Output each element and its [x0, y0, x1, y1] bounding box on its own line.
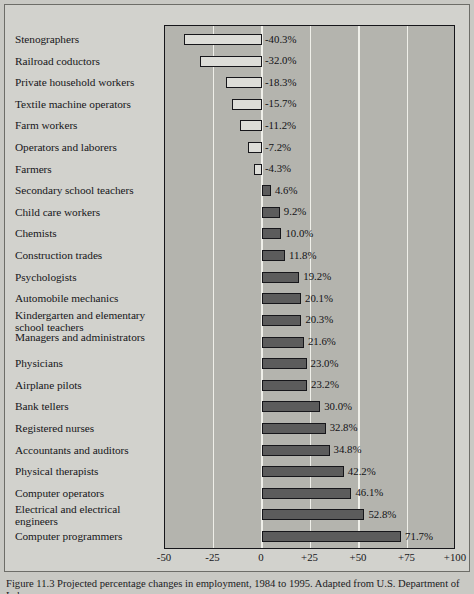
bar-value-label: 9.2%	[284, 206, 307, 217]
category-label: Automobile mechanics	[15, 293, 160, 305]
x-tick-+100: +100	[444, 551, 466, 563]
category-label: Kindergarten and elementary school teach…	[15, 310, 160, 333]
bar-value-label: 20.1%	[305, 293, 333, 304]
bar-bank-tellers	[262, 401, 320, 412]
bar-physicians	[262, 358, 307, 369]
category-label: Private household workers	[15, 77, 160, 89]
bar-value-label: 52.8%	[368, 509, 396, 520]
category-label: Railroad coductors	[15, 56, 160, 68]
bar-value-label: -32.0%	[265, 55, 296, 66]
category-label: Chemists	[15, 228, 160, 240]
category-label: Physicians	[15, 358, 160, 370]
bar-value-label: 71.7%	[405, 531, 433, 542]
bar-value-label: 21.6%	[308, 336, 336, 347]
gridline--25	[213, 26, 215, 548]
x-tick--25: -25	[205, 551, 219, 563]
bar-railroad-coductors	[200, 56, 262, 67]
bar-operators-and-laborers	[248, 142, 262, 153]
bar-construction-trades	[262, 250, 285, 261]
category-label: Bank tellers	[15, 401, 160, 413]
bar-chemists	[262, 228, 281, 239]
bar-textile-machine-operators	[232, 99, 262, 110]
category-label: Airplane pilots	[15, 380, 160, 392]
category-label: Electrical and electrical engineers	[15, 504, 160, 527]
x-tick-0: 0	[258, 551, 263, 563]
x-tick-+25: +25	[301, 551, 318, 563]
category-label: Farm workers	[15, 120, 160, 132]
category-label: Accountants and auditors	[15, 445, 160, 457]
category-label: Textile machine operators	[15, 99, 160, 111]
category-label: Registered nurses	[15, 423, 160, 435]
bar-farm-workers	[240, 120, 262, 131]
bar-value-label: -15.7%	[265, 98, 296, 109]
bar-computer-programmers	[262, 531, 401, 542]
bar-value-label: 34.8%	[334, 444, 362, 455]
category-label: Secondary school teachers	[15, 185, 160, 197]
gridline-75	[407, 26, 409, 548]
bar-automobile-mechanics	[262, 293, 301, 304]
bar-psychologists	[262, 272, 299, 283]
bar-computer-operators	[262, 488, 351, 499]
bar-value-label: 32.8%	[330, 422, 358, 433]
bar-value-label: -7.2%	[265, 142, 291, 153]
category-label: Child care workers	[15, 207, 160, 219]
figure-panel: StenographersRailroad coductorsPrivate h…	[4, 4, 470, 572]
category-label: Computer operators	[15, 488, 160, 500]
x-tick--50: -50	[157, 551, 171, 563]
category-label: Psychologists	[15, 272, 160, 284]
bar-value-label: -11.2%	[265, 120, 296, 131]
x-axis: -50-250+25+50+75+100	[164, 551, 455, 567]
bar-value-label: 10.0%	[285, 228, 313, 239]
category-label: Managers and administrators	[15, 332, 160, 344]
bar-physical-therapists	[262, 466, 344, 477]
bar-value-label: 20.3%	[305, 314, 333, 325]
bar-private-household-workers	[226, 77, 262, 88]
category-label: Stenographers	[15, 34, 160, 46]
bar-value-label: 23.2%	[311, 379, 339, 390]
bar-stenographers	[184, 34, 262, 45]
bar-electrical-and-electrical-engineers	[262, 509, 364, 520]
bar-airplane-pilots	[262, 380, 307, 391]
bar-registered-nurses	[262, 423, 326, 434]
bar-value-label: 19.2%	[303, 271, 331, 282]
bar-value-label: 4.6%	[275, 185, 298, 196]
category-label-column: StenographersRailroad coductorsPrivate h…	[5, 5, 164, 571]
category-label: Computer programmers	[15, 531, 160, 543]
bar-value-label: 46.1%	[355, 487, 383, 498]
category-label: Physical therapists	[15, 466, 160, 478]
chart-plot-area: -40.3%-32.0%-18.3%-15.7%-11.2%-7.2%-4.3%…	[164, 25, 455, 549]
category-label: Farmers	[15, 164, 160, 176]
category-label: Operators and laborers	[15, 142, 160, 154]
bar-accountants-and-auditors	[262, 445, 330, 456]
bar-kindergarten-and-elementary-school-teachers	[262, 315, 301, 326]
bar-value-label: 42.2%	[348, 466, 376, 477]
bar-secondary-school-teachers	[262, 185, 271, 196]
bar-value-label: -18.3%	[265, 77, 296, 88]
bar-value-label: -4.3%	[265, 163, 291, 174]
bar-value-label: 11.8%	[289, 250, 317, 261]
bar-child-care-workers	[262, 207, 280, 218]
bar-value-label: 23.0%	[311, 358, 339, 369]
bar-value-label: -40.3%	[265, 34, 296, 45]
category-label: Construction trades	[15, 250, 160, 262]
bar-farmers	[254, 164, 262, 175]
bar-managers-and-administrators	[262, 337, 304, 348]
bar-value-label: 30.0%	[324, 401, 352, 412]
x-tick-+75: +75	[398, 551, 415, 563]
figure-caption: Figure 11.3 Projected percentage changes…	[6, 578, 474, 594]
x-tick-+50: +50	[350, 551, 367, 563]
